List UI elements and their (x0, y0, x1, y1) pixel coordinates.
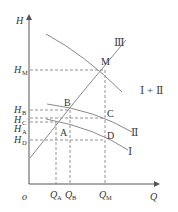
curve-I-plus-II-label: Ⅰ + Ⅱ (140, 84, 164, 96)
point-A-label: A (60, 127, 68, 138)
point-C-label: C (107, 108, 114, 119)
curve-II-label: Ⅱ (131, 126, 138, 138)
combined-curve-I-plus-II (46, 34, 122, 92)
guide-lines (30, 70, 105, 184)
curve-III-label: Ⅲ (114, 36, 125, 48)
svg-text:D: D (22, 139, 27, 146)
svg-text:A: A (22, 128, 27, 135)
x-tick-QM: Q M (99, 189, 112, 201)
origin-label: o (22, 191, 27, 202)
x-tick-QB: Q B (65, 189, 77, 201)
svg-text:M: M (106, 194, 112, 201)
svg-text:C: C (22, 119, 26, 126)
svg-text:B: B (22, 109, 27, 116)
x-tick-QA: Q A (50, 189, 62, 201)
point-B-label: B (64, 97, 71, 108)
svg-text:H: H (13, 64, 22, 75)
y-axis-label: H (15, 15, 24, 26)
point-D-label: D (107, 130, 114, 141)
svg-text:A: A (57, 194, 62, 201)
svg-text:H: H (13, 123, 22, 134)
y-tick-HD: H D (13, 134, 27, 146)
x-axis-label: Q (150, 191, 158, 202)
svg-text:M: M (22, 69, 28, 76)
svg-text:B: B (72, 194, 77, 201)
y-tick-HM: H M (13, 64, 28, 76)
point-M-label: M (101, 56, 110, 67)
svg-text:H: H (13, 134, 22, 145)
curve-I-label: Ⅰ (128, 145, 132, 157)
pump-operating-point-diagram: H Q o H M H B H C H A H D Q A Q B Q M M … (0, 0, 178, 212)
